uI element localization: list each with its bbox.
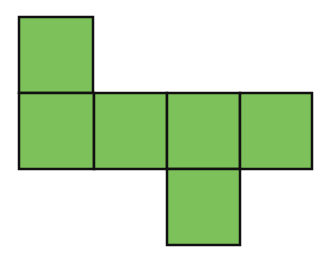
cube-face-row-2	[94, 93, 167, 169]
cube-net-diagram	[0, 0, 326, 257]
cube-face-row-3	[167, 93, 240, 169]
cube-face-row-1	[19, 93, 94, 169]
cube-face-top	[19, 17, 93, 93]
cube-face-row-4	[240, 93, 312, 169]
cube-face-bottom	[167, 169, 240, 245]
